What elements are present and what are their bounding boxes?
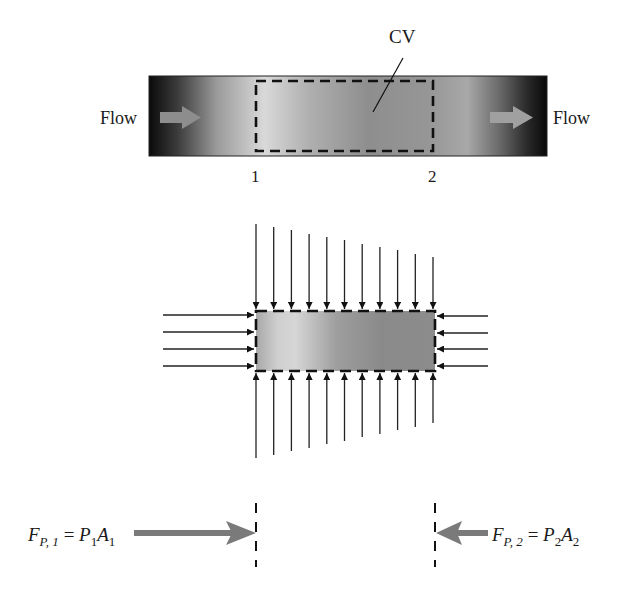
force-p1-label: FP, 1 = P1A1 — [27, 524, 115, 549]
section-1-label: 1 — [251, 167, 260, 186]
force-p1-arrow-icon — [134, 521, 256, 545]
resultant-forces: FP, 1 = P1A1 FP, 2 = P2A2 — [27, 503, 579, 567]
pipe-section: CV Flow Flow 1 2 — [100, 26, 590, 186]
pipe-body — [149, 76, 547, 156]
control-volume-diagram: CV Flow Flow 1 2 — [0, 0, 630, 596]
pressure-force-diagram — [163, 224, 488, 458]
flow-out-label: Flow — [553, 108, 590, 128]
left-pressure-arrows — [163, 315, 254, 366]
cv-body — [256, 311, 435, 371]
cv-label: CV — [389, 26, 416, 47]
force-p2-arrow-icon — [436, 521, 488, 545]
top-pressure-arrows — [256, 224, 433, 309]
flow-in-label: Flow — [100, 108, 137, 128]
section-2-label: 2 — [428, 167, 437, 186]
bottom-pressure-arrows — [256, 373, 433, 458]
right-pressure-arrows — [437, 316, 488, 366]
force-p2-label: FP, 2 = P2A2 — [491, 524, 579, 549]
